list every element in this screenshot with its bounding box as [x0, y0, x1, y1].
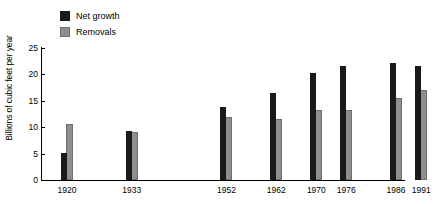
bar-net-growth: [390, 63, 396, 180]
y-tick-label-wrap: 25: [0, 44, 38, 53]
y-tick-label-wrap: 5: [0, 150, 38, 159]
y-tick-label-wrap: 20: [0, 70, 38, 79]
bar-group: [310, 48, 322, 180]
bar-group: [390, 48, 402, 180]
bar-net-growth: [270, 93, 276, 180]
bar-net-growth: [220, 107, 226, 180]
bar-group: [340, 48, 352, 180]
bar-removals: [420, 90, 427, 180]
x-tick-label: 1952: [206, 185, 246, 195]
x-tick-label: 1933: [112, 185, 152, 195]
bar-net-growth: [340, 66, 346, 180]
bar-removals: [131, 132, 138, 180]
removals-swatch-icon: [60, 27, 70, 37]
bar-group: [220, 48, 232, 180]
y-tick-label: 10: [2, 123, 38, 132]
x-axis-line: [41, 180, 405, 181]
y-tick-mark: [42, 180, 45, 181]
bar-net-growth: [61, 153, 67, 180]
x-tick-label: 1920: [47, 185, 87, 195]
y-tick-label: 20: [2, 70, 38, 79]
y-tick-label-wrap: 10: [0, 123, 38, 132]
legend-item-net-growth: Net growth: [60, 8, 120, 23]
bar-group: [61, 48, 73, 180]
y-tick-label: 25: [2, 44, 38, 53]
x-tick-label: 1976: [326, 185, 366, 195]
bar-net-growth: [310, 73, 316, 180]
bar-net-growth: [126, 131, 132, 180]
bar-removals: [225, 117, 232, 180]
bar-group: [126, 48, 138, 180]
y-tick-label: 5: [2, 150, 38, 159]
bar-net-growth: [415, 66, 421, 180]
bar-removals: [275, 119, 282, 180]
bar-group: [270, 48, 282, 180]
bar-group: [415, 48, 427, 180]
y-tick-label-wrap: 15: [0, 97, 38, 106]
bar-removals: [315, 110, 322, 180]
y-tick-label: 15: [2, 97, 38, 106]
chart-legend: Net growth Removals: [60, 8, 120, 40]
bar-removals: [395, 98, 402, 180]
legend-label-net-growth: Net growth: [76, 11, 120, 21]
y-tick-label-wrap: 0: [0, 176, 38, 185]
bar-removals: [345, 110, 352, 180]
x-tick-label: 1962: [256, 185, 296, 195]
plot-area: [41, 48, 405, 180]
bar-removals: [66, 124, 73, 180]
legend-item-removals: Removals: [60, 24, 120, 39]
y-axis-title: Billions of cubic feet per year: [2, 0, 16, 190]
legend-label-removals: Removals: [76, 27, 116, 37]
y-tick-label: 0: [2, 176, 38, 185]
net-growth-swatch-icon: [60, 11, 70, 21]
x-tick-label: 1991: [401, 185, 435, 195]
